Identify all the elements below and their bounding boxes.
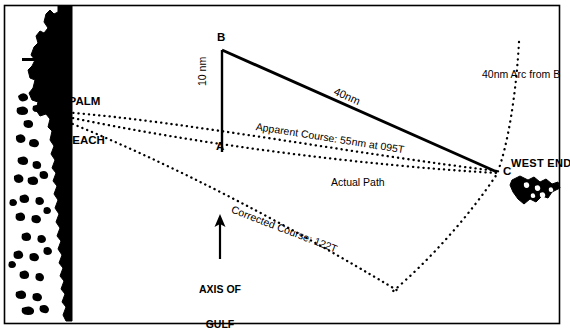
gulf-stream-axis-arrow: [215, 214, 226, 259]
point-label-a: A: [216, 140, 224, 152]
arc-label-40nm-from-b: 40nm Arc from B: [482, 68, 560, 80]
measure-label-leg-ab: 10 nm: [196, 57, 208, 86]
palm-beach-line-1: PALM: [64, 95, 105, 108]
point-label-b: B: [217, 31, 225, 43]
segment-b-to-c: [222, 50, 497, 172]
gulf-stream-axis-note: AXIS OF GULF STREAM (FROM CHART): [164, 261, 276, 334]
figure-canvas: PALM BEACH B A C WEST END 10 nm 40nm App…: [0, 0, 570, 334]
florida-coastline: [8, 6, 72, 321]
axis-note-line-1: AXIS OF: [164, 284, 276, 296]
west-end-island: [510, 176, 560, 204]
axis-note-line-2: GULF: [164, 319, 276, 331]
place-label-west-end: WEST END: [511, 157, 570, 169]
place-label-palm-beach: PALM BEACH: [64, 69, 105, 173]
course-label-actual: Actual Path: [331, 176, 385, 188]
palm-beach-line-2: BEACH: [64, 134, 105, 147]
